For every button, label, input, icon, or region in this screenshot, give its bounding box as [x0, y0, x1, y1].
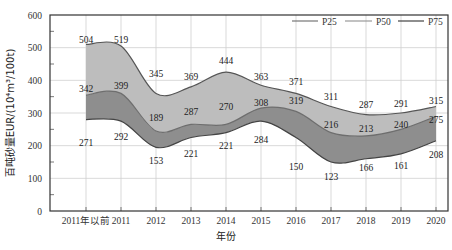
x-tick-label: 2011: [112, 216, 131, 226]
x-tick-label: 2013: [182, 216, 201, 226]
data-label-p50: 308: [254, 98, 269, 108]
x-tick-label: 2014: [217, 216, 236, 226]
y-tick-label: 200: [28, 141, 43, 151]
y-axis-title: 百吨砂量EUR/(10⁴m³/100t): [4, 49, 16, 178]
legend-label: P25: [322, 17, 337, 27]
data-label-p75: 161: [394, 161, 409, 171]
data-label-p50: 342: [79, 84, 94, 94]
data-label-p25: 311: [324, 92, 338, 102]
x-tick-label: 2015: [252, 216, 271, 226]
data-label-p50: 399: [114, 81, 129, 91]
data-label-p75: 284: [254, 135, 269, 145]
y-tick-label: 100: [28, 174, 43, 184]
data-label-p25: 287: [359, 100, 374, 110]
data-label-p75: 153: [149, 156, 164, 166]
y-axis-ticks: 0100200300400500600: [28, 11, 43, 217]
y-tick-label: 300: [28, 109, 43, 119]
data-label-p50: 216: [324, 120, 339, 130]
data-label-p75: 271: [79, 138, 94, 148]
data-label-p75: 221: [184, 149, 199, 159]
data-label-p25: 345: [149, 69, 164, 79]
x-tick-label: 2020: [427, 216, 446, 226]
x-tick-label: 2012: [147, 216, 166, 226]
y-tick-label: 600: [28, 11, 43, 21]
x-tick-label: 2017: [322, 216, 341, 226]
chart: 5045193453694443633713112872913153423991…: [0, 0, 452, 250]
legend-item-p50: P50: [345, 17, 391, 27]
x-tick-label: 2016: [287, 216, 306, 226]
data-label-p75: 166: [359, 163, 374, 173]
data-label-p25: 363: [254, 72, 269, 82]
x-tick-label: 2018: [357, 216, 376, 226]
data-label-p50: 319: [289, 96, 304, 106]
data-label-p75: 208: [429, 150, 444, 160]
y-tick-label: 500: [28, 43, 43, 53]
data-label-p50: 287: [184, 107, 199, 117]
legend: P25P50P75: [292, 17, 443, 27]
data-label-p25: 315: [429, 96, 444, 106]
legend-label: P75: [428, 17, 443, 27]
data-label-p25: 291: [394, 99, 409, 109]
data-label-p25: 504: [79, 35, 94, 45]
data-label-p50: 270: [219, 102, 234, 112]
data-label-p50: 189: [149, 113, 164, 123]
data-label-p75: 123: [324, 172, 339, 182]
data-label-p75: 150: [289, 162, 304, 172]
data-label-p75: 221: [219, 141, 234, 151]
x-axis-ticks: 2011年以前201120122013201420152016201720182…: [62, 215, 446, 226]
data-label-p75: 292: [114, 132, 129, 142]
data-label-p25: 371: [289, 77, 304, 87]
data-label-p25: 519: [114, 35, 129, 45]
x-tick-label: 2019: [392, 216, 411, 226]
data-label-p50: 275: [429, 115, 444, 125]
legend-label: P50: [376, 17, 391, 27]
y-tick-label: 400: [28, 76, 43, 86]
y-tick-label: 0: [37, 207, 42, 217]
data-label-p25: 369: [184, 72, 199, 82]
x-axis-title: 年份: [216, 230, 236, 242]
data-label-p50: 213: [359, 124, 374, 134]
data-label-p50: 240: [394, 120, 409, 130]
data-label-p25: 444: [219, 56, 234, 66]
legend-item-p25: P25: [292, 17, 337, 27]
legend-item-p75: P75: [398, 17, 443, 27]
x-tick-label: 2011年以前: [62, 215, 111, 226]
